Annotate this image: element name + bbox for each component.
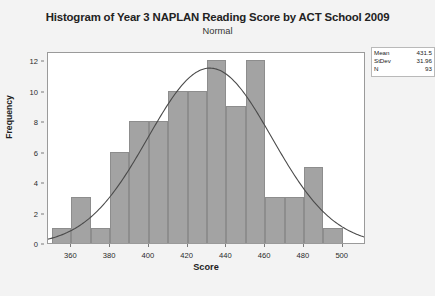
x-axis-title: Score	[47, 262, 365, 272]
histogram-bar	[226, 106, 245, 243]
histogram-bar	[188, 91, 207, 243]
chart-subtitle: Normal	[0, 26, 435, 36]
x-axis-tick-label: 440	[219, 251, 232, 260]
x-axis-tick-mark	[148, 244, 149, 247]
histogram-bar	[265, 197, 284, 243]
y-axis-tick-mark	[41, 61, 44, 62]
histogram-bar	[168, 91, 187, 243]
stat-row: N 93	[374, 65, 432, 73]
y-axis-title: Frequency	[4, 95, 14, 138]
histogram-bar	[285, 197, 304, 243]
histogram-bar	[149, 121, 168, 243]
y-axis-tick-label: 8	[34, 118, 38, 127]
x-axis-tick-mark	[303, 244, 304, 247]
plot-inner	[48, 53, 364, 243]
histogram-bar	[52, 228, 71, 243]
y-axis-tick-mark	[41, 122, 44, 123]
histogram-bar	[207, 60, 226, 243]
y-axis-tick-mark	[41, 213, 44, 214]
x-axis-tick-label: 420	[180, 251, 193, 260]
stat-value-mean: 431.5	[417, 49, 432, 57]
x-axis-tick-label: 360	[64, 251, 77, 260]
y-axis-tick-mark	[41, 183, 44, 184]
histogram-bar	[304, 167, 323, 243]
x-axis-tick-mark	[109, 244, 110, 247]
stat-label-stdev: StDev	[374, 57, 391, 65]
x-axis-tick-mark	[187, 244, 188, 247]
chart-canvas: Histogram of Year 3 NAPLAN Reading Score…	[0, 0, 435, 296]
y-axis-tick-label: 4	[34, 179, 38, 188]
stat-row: StDev 31.96	[374, 57, 432, 65]
y-axis: 024681012	[0, 52, 44, 244]
histogram-bar	[246, 60, 265, 243]
y-axis-tick-label: 2	[34, 209, 38, 218]
stat-label-mean: Mean	[374, 49, 389, 57]
y-axis-tick-label: 6	[34, 148, 38, 157]
y-axis-tick-label: 10	[30, 87, 38, 96]
x-axis-tick-mark	[342, 244, 343, 247]
x-axis-tick-label: 500	[335, 251, 348, 260]
x-axis-tick-label: 480	[297, 251, 310, 260]
stat-row: Mean 431.5	[374, 49, 432, 57]
histogram-bar	[323, 228, 342, 243]
y-axis-tick-label: 12	[30, 57, 38, 66]
histogram-bar	[110, 152, 129, 243]
y-axis-tick-mark	[41, 91, 44, 92]
stat-label-n: N	[374, 65, 378, 73]
x-axis-tick-label: 400	[141, 251, 154, 260]
stat-value-n: 93	[425, 65, 432, 73]
x-axis-tick-label: 460	[258, 251, 271, 260]
plot-area	[47, 52, 365, 244]
statistics-legend-box: Mean 431.5 StDev 31.96 N 93	[371, 47, 435, 77]
x-axis-tick-mark	[264, 244, 265, 247]
y-axis-tick-mark	[41, 152, 44, 153]
stat-value-stdev: 31.96	[417, 57, 432, 65]
y-axis-tick-mark	[41, 244, 44, 245]
chart-title: Histogram of Year 3 NAPLAN Reading Score…	[0, 11, 435, 23]
x-axis-tick-mark	[225, 244, 226, 247]
histogram-bar	[129, 121, 148, 243]
histogram-bar	[91, 228, 110, 243]
x-axis-tick-label: 380	[103, 251, 116, 260]
y-axis-tick-label: 0	[34, 240, 38, 249]
x-axis-tick-mark	[70, 244, 71, 247]
histogram-bar	[71, 197, 90, 243]
